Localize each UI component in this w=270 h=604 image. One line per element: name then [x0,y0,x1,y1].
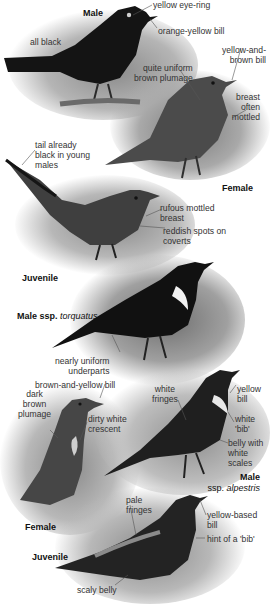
label-dirty-white-crescent: dirty white crescent [88,414,127,434]
caption-female-ring-ouzel: Female [25,522,56,533]
label-rufous-mottled-breast: rufous mottled breast [160,203,214,223]
label-dark-brown-plumage: dark brown plumage [18,389,51,419]
label-yellow-eye-ring: yellow eye-ring [153,0,210,10]
label-reddish-spots-on-coverts: reddish spots on coverts [163,226,226,246]
label-white-bib: white 'bib' [235,414,255,434]
label-belly-with-white-scales: belly with white scales [228,438,263,468]
caption-female: Female [222,183,253,194]
label-scaly-belly: scaly belly [77,585,117,595]
label-yellow-based-bill: yellow-based bill [207,510,257,530]
label-yellow-and-brown-bill: yellow-and- brown bill [222,45,266,65]
label-orange-yellow-bill: orange-yellow bill [158,26,224,36]
label-all-black: all black [30,37,61,47]
label-hint-of-a-bib: hint of a 'bib' [207,534,255,544]
caption-juvenile: Juvenile [22,273,58,284]
caption-male-torquatus: Male ssp. torquatus [17,311,98,322]
label-white-fringes: white fringes [152,384,178,404]
caption-juvenile-ring-ouzel: Juvenile [32,552,68,563]
female-vignette [110,70,270,180]
caption-male-alpestris: Male ssp. alpestris [207,472,260,494]
label-tail-already-black: tail already black in young males [35,140,90,170]
label-breast-often-mottled: breast often mottled [232,92,260,122]
label-pale-fringes: pale fringes [126,495,152,515]
label-nearly-uniform-underparts: nearly uniform underparts [55,356,109,376]
field-guide-plate: Male yellow eye-ring orange-yellow bill … [0,0,270,604]
label-quite-uniform-brown-plumage: quite uniform brown plumage [134,63,193,83]
label-yellow-bill: yellow bill [237,384,261,404]
caption-male: Male [83,8,103,19]
